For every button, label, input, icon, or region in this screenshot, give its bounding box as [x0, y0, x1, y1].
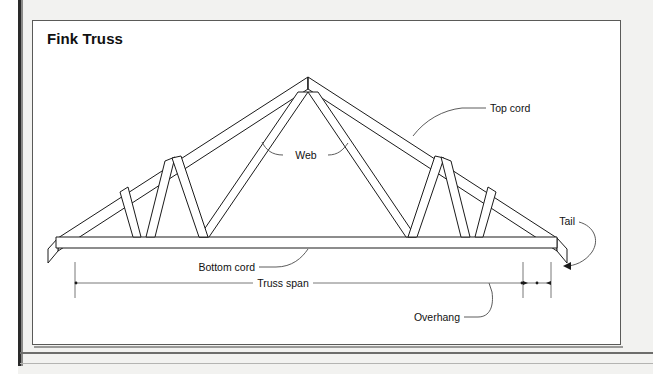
truss-span-tick-right [521, 282, 524, 285]
top-cord-leader [413, 108, 486, 136]
web-left-v-left [172, 156, 208, 237]
label-truss-span: Truss span [257, 277, 309, 289]
overhang-leader [464, 283, 492, 317]
top-chord-right-tail-tip [557, 238, 567, 263]
overhang-arrowhead-left [523, 281, 528, 285]
web-right-inner-a [441, 157, 470, 237]
bottom-chord [56, 237, 557, 248]
fink-truss-drawing: Top cord Web Tail Bottom cord Truss span… [0, 0, 653, 374]
label-web: Web [295, 149, 317, 161]
web-left-inner-a [146, 157, 175, 237]
label-tail: Tail [559, 215, 575, 227]
label-top-cord: Top cord [490, 102, 530, 114]
label-bottom-cord: Bottom cord [198, 261, 255, 273]
bottom-cord-leader [259, 249, 308, 267]
overhang-arrowhead-right [546, 281, 551, 285]
tail-leader [566, 222, 596, 266]
page-canvas: Fink Truss [0, 0, 653, 374]
overhang-tick-mid [536, 282, 539, 285]
label-overhang: Overhang [414, 311, 460, 323]
web-right-v-right [408, 156, 444, 237]
truss-span-tick-left [75, 282, 78, 285]
